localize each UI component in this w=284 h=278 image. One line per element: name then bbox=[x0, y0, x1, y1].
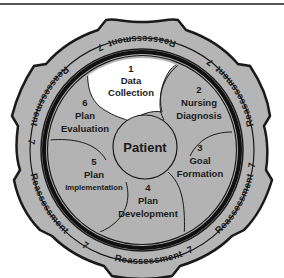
svg-text:3: 3 bbox=[197, 142, 202, 153]
svg-text:Nursing: Nursing bbox=[181, 97, 217, 108]
svg-text:Formation: Formation bbox=[177, 168, 224, 179]
svg-text:Evaluation: Evaluation bbox=[61, 123, 109, 134]
svg-text:Plan: Plan bbox=[138, 195, 158, 206]
svg-text:Plan: Plan bbox=[84, 169, 104, 180]
nursing-process-wheel: Reassessment 7 Reassessment 7 Reassessme… bbox=[0, 0, 284, 278]
svg-text:Goal: Goal bbox=[189, 155, 210, 166]
svg-text:Plan: Plan bbox=[75, 110, 95, 121]
patient-label: Patient bbox=[123, 140, 167, 155]
svg-text:Collection: Collection bbox=[108, 87, 154, 98]
svg-text:Data: Data bbox=[121, 75, 142, 86]
svg-text:6: 6 bbox=[82, 97, 87, 108]
svg-text:4: 4 bbox=[145, 182, 151, 193]
svg-text:Diagnosis: Diagnosis bbox=[176, 110, 221, 121]
svg-text:Development: Development bbox=[118, 208, 178, 219]
svg-text:Implementation: Implementation bbox=[65, 183, 123, 192]
svg-text:2: 2 bbox=[196, 84, 201, 95]
svg-text:5: 5 bbox=[91, 156, 97, 167]
svg-text:1: 1 bbox=[128, 63, 134, 74]
